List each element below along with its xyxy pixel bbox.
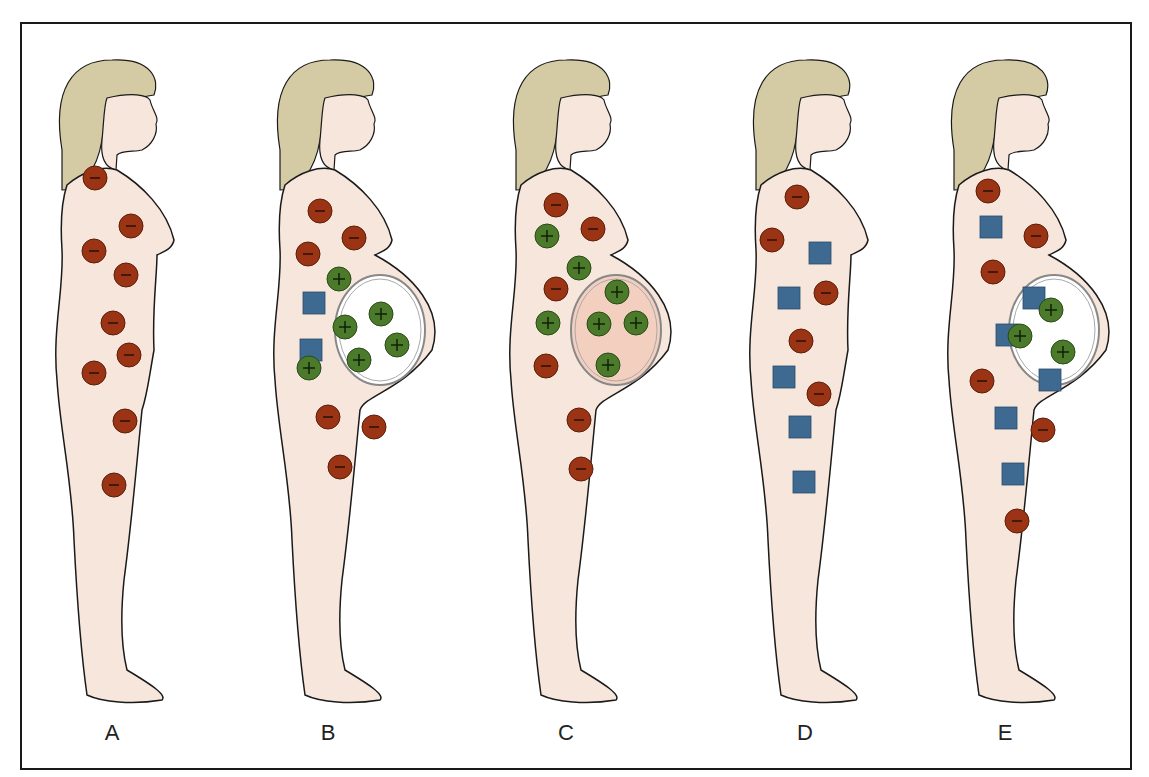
panel-label-a: A <box>92 720 132 746</box>
antibody-square-icon <box>789 416 811 438</box>
antibody-square-icon <box>980 216 1002 238</box>
panel-label-b: B <box>308 720 348 746</box>
panel-label-e: E <box>985 720 1025 746</box>
woman-figure-d <box>750 60 868 703</box>
rh-sensitization-diagram <box>0 0 1149 777</box>
antibody-square-icon <box>793 471 815 493</box>
antibody-square-icon <box>778 287 800 309</box>
woman-figure-a <box>56 60 174 703</box>
panel-label-c: C <box>546 720 586 746</box>
woman-figure-c <box>510 60 671 703</box>
antibody-square-icon <box>809 242 831 264</box>
woman-figure-e <box>948 60 1109 703</box>
woman-figure-b <box>274 60 435 703</box>
antibody-square-icon <box>1039 369 1061 391</box>
antibody-square-icon <box>995 407 1017 429</box>
antibody-square-icon <box>773 366 795 388</box>
panel-label-d: D <box>785 720 825 746</box>
antibody-square-icon <box>303 292 325 314</box>
antibody-square-icon <box>1002 463 1024 485</box>
